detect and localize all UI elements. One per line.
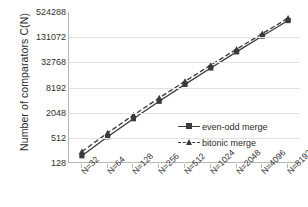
y-axis-tick-label: 512: [8, 133, 66, 143]
data-point-marker: [182, 78, 188, 84]
data-point-marker: [233, 46, 239, 52]
y-axis-tick-labels: 5242881310723276881922048512128: [6, 0, 66, 207]
gridline: [69, 88, 300, 89]
legend-swatch-triangle-icon: [178, 138, 200, 148]
y-axis-tick-label: 128: [8, 158, 66, 168]
y-axis-tick-label: 8192: [8, 83, 66, 93]
gridline: [69, 62, 300, 63]
y-axis-tick-label: 524288: [8, 7, 66, 17]
legend-swatch-square-icon: [178, 122, 200, 132]
legend-item-even-odd-merge: even-odd merge: [178, 119, 296, 135]
y-axis-tick-label: 131072: [8, 32, 66, 42]
data-point-marker: [156, 95, 162, 101]
legend-label-even-odd-merge: even-odd merge: [202, 122, 268, 132]
chart-container: Number of comparators C(N) 5242881310723…: [0, 0, 308, 207]
y-axis-tick-label: 32768: [8, 57, 66, 67]
x-axis-tick-labels: N=32N=64N=128N=256N=512N=1024N=2048N=409…: [68, 164, 300, 207]
y-axis-tick-label: 2048: [8, 108, 66, 118]
data-point-marker: [285, 15, 291, 21]
legend-label-bitonic-merge: bitonic merge: [202, 138, 256, 148]
chart-legend: even-odd merge bitonic merge: [178, 119, 296, 151]
data-point-marker: [259, 30, 265, 36]
legend-item-bitonic-merge: bitonic merge: [178, 135, 296, 151]
gridline: [69, 37, 300, 38]
gridline: [69, 113, 300, 114]
